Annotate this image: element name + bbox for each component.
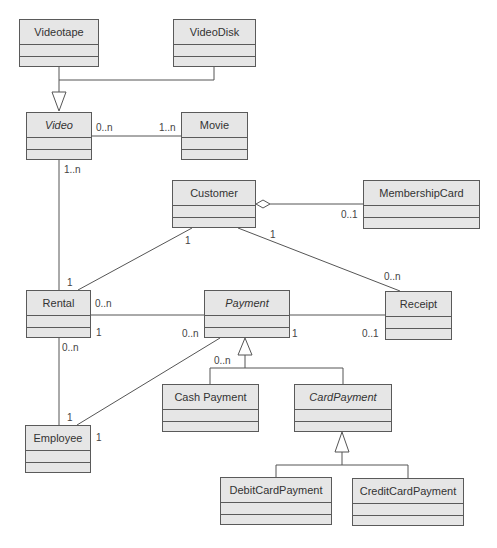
class-name: DebitCardPayment xyxy=(221,478,331,503)
attributes-compartment xyxy=(27,316,90,328)
class-creditcardpayment[interactable]: CreditCardPayment xyxy=(352,478,464,526)
multiplicity-label: 0..n xyxy=(214,355,231,366)
class-name: Movie xyxy=(182,113,247,138)
class-movie[interactable]: Movie xyxy=(181,112,248,160)
multiplicity-label: 1 xyxy=(96,327,102,338)
class-rental[interactable]: Rental xyxy=(26,290,91,338)
operations-compartment xyxy=(20,57,98,68)
class-video[interactable]: Video xyxy=(26,112,92,160)
multiplicity-label: 0..1 xyxy=(362,328,379,339)
class-name: VideoDisk xyxy=(174,20,255,45)
class-name: CreditCardPayment xyxy=(353,479,463,504)
multiplicity-label: 0..1 xyxy=(341,209,358,220)
class-membershipcard[interactable]: MembershipCard xyxy=(363,180,480,229)
multiplicity-label: 0..n xyxy=(96,122,113,133)
attributes-compartment xyxy=(26,451,90,463)
operations-compartment xyxy=(182,150,247,161)
class-name: Customer xyxy=(173,181,255,206)
operations-compartment xyxy=(27,150,91,161)
attributes-compartment xyxy=(386,317,451,329)
operations-compartment xyxy=(221,515,331,526)
class-name: Video xyxy=(27,113,91,138)
class-name: Employee xyxy=(26,426,90,451)
uml-class-diagram: Videotape VideoDisk Video Movie Customer… xyxy=(0,0,497,548)
class-receipt[interactable]: Receipt xyxy=(385,291,452,340)
class-name: Videotape xyxy=(20,20,98,45)
class-employee[interactable]: Employee xyxy=(25,425,91,473)
class-cashpayment[interactable]: Cash Payment xyxy=(162,384,259,432)
operations-compartment xyxy=(173,218,255,229)
class-name: MembershipCard xyxy=(364,181,479,206)
multiplicity-label: 1 xyxy=(270,229,276,240)
multiplicity-label: 1..n xyxy=(64,164,81,175)
class-name: Payment xyxy=(205,291,289,316)
class-videotape[interactable]: Videotape xyxy=(19,19,99,67)
class-name: Cash Payment xyxy=(163,385,258,410)
multiplicity-label: 0..n xyxy=(182,328,199,339)
operations-compartment xyxy=(26,463,90,474)
attributes-compartment xyxy=(353,504,463,516)
class-payment[interactable]: Payment xyxy=(204,290,290,338)
multiplicity-label: 1 xyxy=(67,277,73,288)
operations-compartment xyxy=(27,328,90,339)
multiplicity-label: 0..n xyxy=(384,271,401,282)
attributes-compartment xyxy=(221,503,331,515)
attributes-compartment xyxy=(182,138,247,150)
operations-compartment xyxy=(386,329,451,340)
class-name: Rental xyxy=(27,291,90,316)
attributes-compartment xyxy=(205,316,289,328)
class-customer[interactable]: Customer xyxy=(172,180,256,228)
operations-compartment xyxy=(174,57,255,68)
attributes-compartment xyxy=(364,206,479,218)
attributes-compartment xyxy=(20,45,98,57)
class-cardpayment[interactable]: CardPayment xyxy=(294,384,392,432)
multiplicity-label: 0..n xyxy=(62,342,79,353)
multiplicity-label: 1 xyxy=(185,235,191,246)
attributes-compartment xyxy=(174,45,255,57)
multiplicity-label: 1 xyxy=(292,328,298,339)
multiplicity-label: 0..n xyxy=(95,298,112,309)
attributes-compartment xyxy=(163,410,258,422)
attributes-compartment xyxy=(295,410,391,422)
class-name: CardPayment xyxy=(295,385,391,410)
operations-compartment xyxy=(295,422,391,433)
class-name: Receipt xyxy=(386,292,451,317)
class-videodisk[interactable]: VideoDisk xyxy=(173,19,256,67)
multiplicity-label: 1 xyxy=(67,412,73,423)
attributes-compartment xyxy=(173,206,255,218)
attributes-compartment xyxy=(27,138,91,150)
class-debitcardpayment[interactable]: DebitCardPayment xyxy=(220,477,332,525)
operations-compartment xyxy=(364,218,479,229)
operations-compartment xyxy=(205,328,289,339)
operations-compartment xyxy=(353,516,463,527)
operations-compartment xyxy=(163,422,258,433)
multiplicity-label: 1 xyxy=(96,432,102,443)
multiplicity-label: 1..n xyxy=(159,122,176,133)
